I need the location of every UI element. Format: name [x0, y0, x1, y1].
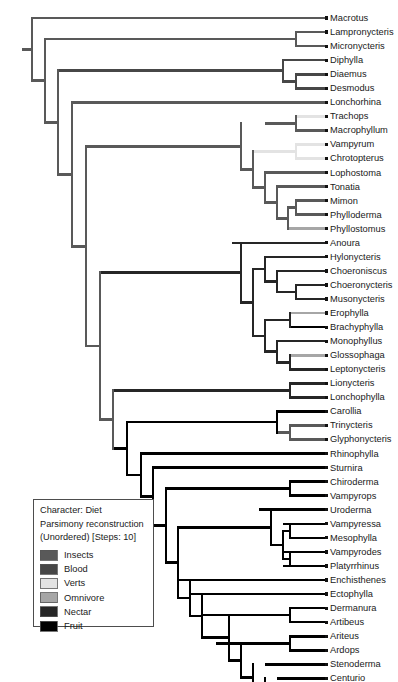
branch-horizontal — [277, 217, 288, 220]
legend-swatch-nectar[interactable] — [40, 607, 57, 617]
tip-marker — [325, 157, 328, 160]
legend-label-nectar: Nectar — [64, 607, 91, 617]
tip-marker — [325, 578, 328, 581]
taxon-label: Lionycteris — [330, 378, 375, 388]
tip-marker — [325, 564, 328, 567]
branch-horizontal — [202, 614, 290, 617]
tip-marker — [325, 410, 328, 413]
taxon-label: Desmodus — [330, 83, 375, 93]
terminal-branch — [277, 270, 326, 273]
taxon-label: Chiroderma — [330, 477, 379, 487]
branch-horizontal — [190, 615, 202, 618]
branch-horizontal — [127, 421, 277, 424]
tip-marker — [325, 424, 328, 427]
tip-marker — [325, 536, 328, 539]
legend-swatch-omnivore[interactable] — [40, 593, 57, 603]
tip-marker — [325, 185, 328, 188]
taxon-label: Ectophylla — [330, 589, 374, 599]
branch-horizontal — [166, 487, 290, 490]
tip-marker — [325, 649, 328, 652]
taxon-label: Artibeus — [330, 617, 364, 627]
cladogram-canvas: MacrotusLampronycterisMicronycterisDiphy… — [0, 0, 398, 682]
taxon-label: Tonatia — [330, 182, 361, 192]
terminal-branch — [290, 649, 326, 652]
branch-horizontal — [277, 431, 290, 434]
taxon-label: Uroderma — [330, 505, 372, 515]
branch-horizontal — [86, 145, 241, 148]
terminal-branch — [277, 410, 326, 413]
tip-marker — [325, 522, 328, 525]
terminal-branch — [277, 340, 326, 343]
legend-label-insects: Insects — [64, 550, 94, 560]
terminal-branch — [153, 466, 326, 469]
branch-horizontal — [153, 524, 166, 527]
tip-marker — [325, 171, 328, 174]
terminal-branch — [296, 129, 326, 132]
branch-horizontal — [166, 561, 178, 564]
taxon-label: Ariteus — [330, 631, 359, 641]
terminal-branch — [290, 635, 326, 638]
taxon-label: Macrotus — [330, 13, 369, 23]
legend-group[interactable]: Character: DietParsimony reconstruction(… — [33, 499, 153, 631]
terminal-branch — [265, 171, 326, 174]
legend-swatch-insects[interactable] — [40, 550, 57, 560]
phylogenetic-tree-figure: MacrotusLampronycterisMicronycterisDiphy… — [0, 0, 398, 682]
tip-marker — [325, 255, 328, 258]
taxon-label: Anoura — [330, 238, 361, 248]
terminal-branch — [277, 185, 326, 188]
taxon-label: Mesophylla — [330, 533, 378, 543]
terminal-branch — [232, 242, 326, 245]
branch-horizontal — [241, 676, 253, 679]
terminal-branch — [290, 424, 326, 427]
terminal-branch — [290, 438, 326, 441]
terminal-branch — [277, 677, 326, 680]
tip-marker — [325, 494, 328, 497]
terminal-branch — [290, 312, 326, 315]
tip-marker — [325, 550, 328, 553]
tip-marker — [325, 283, 328, 286]
legend-label-blood: Blood — [64, 564, 88, 574]
branch-horizontal — [265, 122, 296, 125]
legend-swatch-fruit[interactable] — [40, 621, 57, 631]
legend-title-line: Character: Diet — [40, 505, 102, 515]
taxon-label: Mimon — [330, 196, 358, 206]
terminal-branch — [259, 508, 326, 511]
tip-marker — [325, 480, 328, 483]
taxon-label: Vampyrodes — [330, 547, 382, 557]
legend-title-line: (Unordered) [Steps: 10] — [40, 532, 136, 542]
tip-marker — [325, 73, 328, 76]
taxon-label: Brachyphylla — [330, 322, 384, 332]
branch-horizontal — [265, 319, 290, 322]
taxon-label: Macrophyllum — [330, 125, 388, 135]
terminal-branch — [265, 663, 326, 666]
branch-horizontal — [253, 268, 265, 271]
terminal-branch — [296, 157, 326, 160]
taxon-label: Vampyrops — [330, 491, 377, 501]
tip-marker — [325, 607, 328, 610]
tip-marker — [325, 241, 328, 244]
root-branch — [22, 48, 32, 51]
branch-horizontal — [253, 335, 265, 338]
taxon-label: Phyllostomus — [330, 224, 386, 234]
legend-label-omnivore: Omnivore — [64, 593, 104, 603]
terminal-branch — [190, 593, 326, 596]
terminal-branch — [296, 213, 326, 216]
branch-horizontal — [202, 636, 229, 639]
terminal-branch — [72, 101, 326, 104]
tip-marker — [325, 227, 328, 230]
branch-horizontal — [216, 642, 290, 645]
legend-swatch-verts[interactable] — [40, 578, 57, 588]
terminal-branch — [296, 87, 326, 90]
taxon-label: Choeronycteris — [330, 280, 393, 290]
branch-horizontal — [265, 201, 277, 204]
legend-swatch-blood[interactable] — [40, 564, 57, 574]
branch-horizontal — [178, 597, 190, 600]
branch-vertical — [264, 677, 267, 682]
terminal-branch — [290, 537, 326, 540]
terminal-branch — [290, 382, 326, 385]
tip-marker — [325, 311, 328, 314]
terminal-branch — [178, 579, 326, 582]
branch-horizontal — [45, 121, 58, 124]
taxon-label: Musonycteris — [330, 294, 385, 304]
tip-marker — [325, 326, 328, 329]
